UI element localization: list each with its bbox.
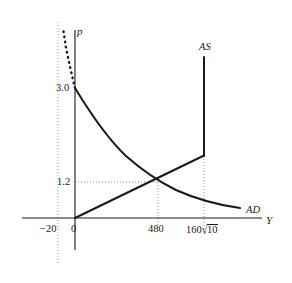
y-tick-label-1-2: 1.2 (57, 177, 70, 188)
as-curve-label: AS (199, 42, 211, 53)
capacity-radicand: 10 (207, 224, 219, 236)
as-curve-rising (75, 156, 204, 219)
ad-curve-dashed-extension (63, 28, 75, 88)
ad-curve-label: AD (246, 205, 260, 216)
as-ad-diagram: p Y AS AD 3.0 1.2 −20 0 480 160√10 (0, 0, 292, 283)
y-tick-label-3-0: 3.0 (56, 83, 69, 94)
plot-canvas (0, 0, 292, 283)
x-tick-label-480: 480 (148, 224, 164, 235)
y-axis-label: p (77, 26, 83, 37)
radical-sign-icon: √ (202, 224, 208, 237)
x-tick-label-capacity: 160√10 (186, 224, 218, 236)
ad-curve (75, 88, 240, 208)
x-tick-label-minus20: −20 (40, 224, 56, 235)
capacity-coefficient: 160 (186, 224, 202, 235)
x-tick-label-0: 0 (71, 224, 76, 235)
x-axis-label: Y (266, 215, 272, 226)
